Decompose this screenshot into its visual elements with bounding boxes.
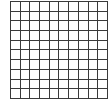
grid-cell[interactable] xyxy=(89,2,99,12)
grid-cell[interactable] xyxy=(98,41,108,51)
grid-cell[interactable] xyxy=(40,80,50,90)
grid-cell[interactable] xyxy=(89,31,99,41)
grid-cell[interactable] xyxy=(50,41,60,51)
grid-cell[interactable] xyxy=(79,2,89,12)
grid-cell[interactable] xyxy=(50,60,60,70)
grid-cell[interactable] xyxy=(59,60,69,70)
grid-cell[interactable] xyxy=(30,2,40,12)
grid-cell[interactable] xyxy=(89,41,99,51)
grid-cell[interactable] xyxy=(21,89,31,99)
grid-cell[interactable] xyxy=(89,89,99,99)
grid-cell[interactable] xyxy=(69,2,79,12)
grid-cell[interactable] xyxy=(50,31,60,41)
grid-cell[interactable] xyxy=(11,89,21,99)
grid-cell[interactable] xyxy=(59,50,69,60)
grid-cell[interactable] xyxy=(59,89,69,99)
grid-cell[interactable] xyxy=(11,21,21,31)
grid-cell[interactable] xyxy=(11,41,21,51)
grid-cell[interactable] xyxy=(79,60,89,70)
grid-cell[interactable] xyxy=(21,21,31,31)
grid-cell[interactable] xyxy=(69,12,79,22)
grid-cell[interactable] xyxy=(21,60,31,70)
grid-cell[interactable] xyxy=(89,50,99,60)
grid-cell[interactable] xyxy=(69,89,79,99)
grid-cell[interactable] xyxy=(69,70,79,80)
grid-cell[interactable] xyxy=(79,41,89,51)
grid-cell[interactable] xyxy=(59,41,69,51)
grid-cell[interactable] xyxy=(89,80,99,90)
grid-cell[interactable] xyxy=(98,60,108,70)
grid-cell[interactable] xyxy=(11,80,21,90)
grid-cell[interactable] xyxy=(98,80,108,90)
grid-cell[interactable] xyxy=(50,70,60,80)
grid-cell[interactable] xyxy=(79,21,89,31)
grid-cell[interactable] xyxy=(21,31,31,41)
grid-cell[interactable] xyxy=(30,89,40,99)
grid-cell[interactable] xyxy=(21,70,31,80)
grid-cell[interactable] xyxy=(11,2,21,12)
grid-cell[interactable] xyxy=(69,80,79,90)
grid-cell[interactable] xyxy=(40,70,50,80)
grid-cell[interactable] xyxy=(30,60,40,70)
grid-cell[interactable] xyxy=(21,12,31,22)
grid-cell[interactable] xyxy=(40,41,50,51)
grid-cell[interactable] xyxy=(21,41,31,51)
grid-cell[interactable] xyxy=(11,50,21,60)
grid-cell[interactable] xyxy=(50,50,60,60)
grid-cell[interactable] xyxy=(89,60,99,70)
grid-cell[interactable] xyxy=(50,80,60,90)
grid-cell[interactable] xyxy=(98,2,108,12)
grid-cell[interactable] xyxy=(69,41,79,51)
grid-cell[interactable] xyxy=(11,31,21,41)
grid-cell[interactable] xyxy=(30,80,40,90)
grid-cell[interactable] xyxy=(89,12,99,22)
grid-cell[interactable] xyxy=(79,12,89,22)
grid-cell[interactable] xyxy=(59,12,69,22)
grid-cell[interactable] xyxy=(21,50,31,60)
grid-cell[interactable] xyxy=(30,41,40,51)
grid-cell[interactable] xyxy=(98,50,108,60)
grid-cell[interactable] xyxy=(40,60,50,70)
grid-cell[interactable] xyxy=(50,2,60,12)
grid-cell[interactable] xyxy=(98,70,108,80)
grid-cell[interactable] xyxy=(89,70,99,80)
grid-cell[interactable] xyxy=(98,89,108,99)
grid-cell[interactable] xyxy=(98,21,108,31)
grid-cell[interactable] xyxy=(40,2,50,12)
grid-cell[interactable] xyxy=(30,31,40,41)
grid-cell[interactable] xyxy=(21,2,31,12)
grid-cell[interactable] xyxy=(79,89,89,99)
grid-cell[interactable] xyxy=(30,50,40,60)
grid-cell[interactable] xyxy=(50,89,60,99)
grid-cell[interactable] xyxy=(98,31,108,41)
grid-cell[interactable] xyxy=(89,21,99,31)
grid-cell[interactable] xyxy=(79,70,89,80)
grid-cell[interactable] xyxy=(69,21,79,31)
grid-cell[interactable] xyxy=(40,12,50,22)
grid-cell[interactable] xyxy=(59,80,69,90)
grid-cell[interactable] xyxy=(40,31,50,41)
grid-cell[interactable] xyxy=(59,2,69,12)
grid-cell[interactable] xyxy=(50,21,60,31)
grid-cell[interactable] xyxy=(11,12,21,22)
grid-cell[interactable] xyxy=(79,31,89,41)
grid-cell[interactable] xyxy=(40,50,50,60)
grid-cell[interactable] xyxy=(59,31,69,41)
grid-cell[interactable] xyxy=(30,70,40,80)
grid-cell[interactable] xyxy=(59,70,69,80)
grid-cell[interactable] xyxy=(98,12,108,22)
grid-cell[interactable] xyxy=(69,60,79,70)
grid-cell[interactable] xyxy=(40,89,50,99)
grid-cell[interactable] xyxy=(11,70,21,80)
grid-cell[interactable] xyxy=(30,12,40,22)
grid-cell[interactable] xyxy=(69,50,79,60)
grid-cell[interactable] xyxy=(50,12,60,22)
grid-cell[interactable] xyxy=(59,21,69,31)
grid-cell[interactable] xyxy=(30,21,40,31)
grid-cell[interactable] xyxy=(79,50,89,60)
grid-cell[interactable] xyxy=(11,60,21,70)
grid-cell[interactable] xyxy=(40,21,50,31)
grid-cell[interactable] xyxy=(21,80,31,90)
grid-cell[interactable] xyxy=(79,80,89,90)
grid-cell[interactable] xyxy=(69,31,79,41)
